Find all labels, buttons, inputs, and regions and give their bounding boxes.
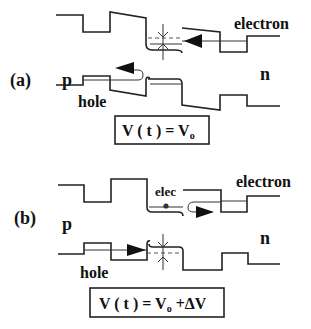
- panel-a-label: (a): [10, 70, 31, 91]
- panel-b-electron-dot-icon: [163, 203, 168, 208]
- panel-b-hole-label: hole: [80, 264, 108, 281]
- panel-b-elec-annotation: elec: [155, 184, 176, 199]
- panel-b-n-region-label: n: [260, 228, 270, 248]
- band-diagram-figure: (a) p n electron hole V ( t ) = Vo: [0, 0, 311, 329]
- panel-a-n-region-label: n: [260, 64, 270, 84]
- panel-b-p-region-label: p: [62, 214, 72, 234]
- panel-b-electron-arrow-icon: [196, 206, 214, 218]
- panel-a-hole-label: hole: [78, 93, 106, 110]
- panel-b: (b) p n electron hole elec V ( t ) = Vo …: [14, 173, 291, 317]
- panel-a-hole-arrow-icon: [115, 62, 134, 74]
- panel-a-electron-arrow-icon: [184, 34, 202, 48]
- panel-b-electron-label: electron: [236, 173, 291, 190]
- panel-a-formula: V ( t ) = Vo: [122, 122, 195, 141]
- panel-a-p-region-label: p: [62, 70, 72, 90]
- panel-a: (a) p n electron hole V ( t ) = Vo: [10, 12, 289, 144]
- panel-b-formula: V ( t ) = Vo +ΔV: [99, 295, 207, 314]
- panel-a-electron-label: electron: [234, 15, 289, 32]
- panel-b-label: (b): [14, 208, 36, 229]
- panel-b-hole-arrow-icon: [127, 244, 146, 256]
